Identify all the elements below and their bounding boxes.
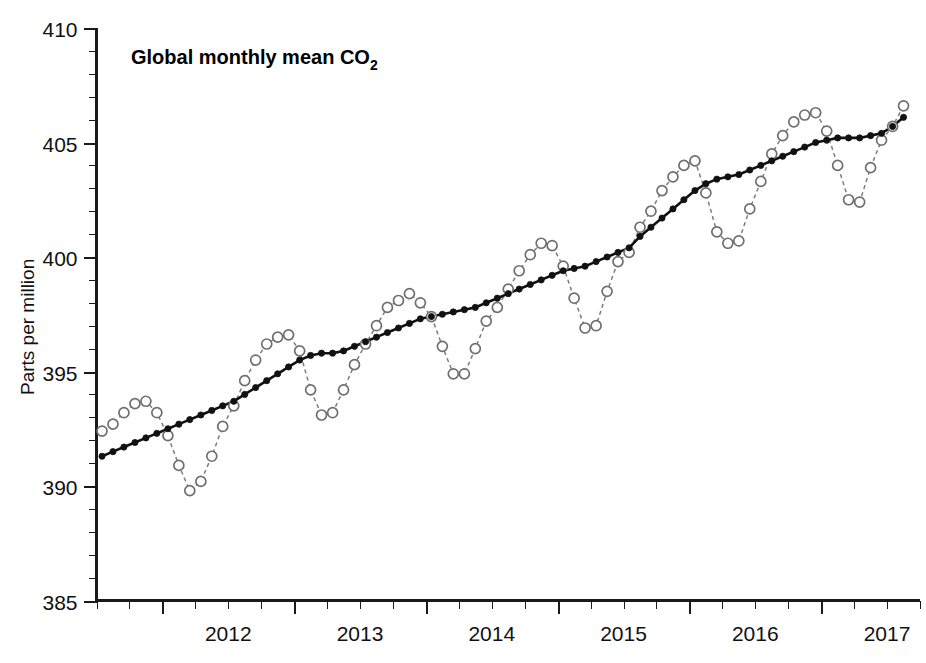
monthly-mean-data-point [152, 408, 162, 418]
trend-data-point [747, 167, 753, 173]
trend-data-point [308, 352, 314, 358]
trend-data-point [494, 295, 500, 301]
trend-data-point [845, 135, 851, 141]
monthly-mean-data-point [174, 460, 184, 470]
chart-title-main: Global monthly mean CO [131, 46, 370, 68]
trend-data-point [351, 343, 357, 349]
monthly-mean-data-point [207, 451, 217, 461]
trend-data-point [330, 350, 336, 356]
trend-data-point [340, 348, 346, 354]
monthly-mean-data-point [745, 204, 755, 214]
monthly-mean-data-point [668, 172, 678, 182]
monthly-mean-data-point [679, 160, 689, 170]
monthly-mean-data-point [756, 176, 766, 186]
trend-data-point [769, 158, 775, 164]
monthly-mean-data-point [833, 160, 843, 170]
y-tick-label-405: 405 [42, 133, 77, 156]
trend-data-point [395, 325, 401, 331]
monthly-mean-path [102, 106, 904, 491]
trend-data-point [121, 444, 127, 450]
monthly-mean-data-point [328, 408, 338, 418]
trend-data-point [264, 378, 270, 384]
monthly-mean-data-point [459, 369, 469, 379]
trend-data-point [373, 334, 379, 340]
monthly-mean-data-point [822, 126, 832, 136]
x-tick-label-2016: 2016 [732, 622, 779, 645]
trend-data-point [286, 364, 292, 370]
monthly-mean-data-point [723, 238, 733, 248]
trend-series-markers [99, 114, 907, 459]
trend-data-point [835, 135, 841, 141]
monthly-mean-data-point [569, 293, 579, 303]
trend-data-point [209, 407, 215, 413]
y-tick-label-395: 395 [42, 362, 77, 385]
monthly-mean-data-point [734, 236, 744, 246]
chart-title: Global monthly mean CO2 [131, 46, 378, 73]
x-tick-label-2017: 2017 [864, 622, 911, 645]
trend-data-point [889, 123, 895, 129]
trend-data-point [472, 304, 478, 310]
trend-data-point [176, 421, 182, 427]
monthly-mean-data-point [437, 341, 447, 351]
monthly-mean-data-point [811, 108, 821, 118]
monthly-mean-data-point [130, 399, 140, 409]
trend-data-point [461, 307, 467, 313]
x-tick-label-2013: 2013 [337, 622, 384, 645]
trend-data-point [165, 426, 171, 432]
monthly-mean-data-point [393, 296, 403, 306]
trend-data-point [231, 398, 237, 404]
monthly-mean-data-point [382, 302, 392, 312]
y-axis-title: Parts per million [17, 259, 38, 395]
monthly-mean-data-point [899, 101, 909, 111]
trend-data-point [132, 439, 138, 445]
monthly-mean-data-point [448, 369, 458, 379]
y-tick-label-400: 400 [42, 247, 77, 270]
trend-data-point [878, 130, 884, 136]
trend-data-point [318, 350, 324, 356]
monthly-mean-data-point [196, 476, 206, 486]
y-axis-ticks [84, 29, 97, 602]
monthly-mean-data-point [108, 419, 118, 429]
trend-data-point [297, 357, 303, 363]
trend-data-point [604, 254, 610, 260]
trend-data-point [242, 391, 248, 397]
trend-data-point [384, 329, 390, 335]
trend-data-point [824, 137, 830, 143]
monthly-mean-data-point [778, 131, 788, 141]
trend-data-point [626, 245, 632, 251]
trend-data-point [549, 272, 555, 278]
trend-data-point [681, 197, 687, 203]
monthly-mean-data-point [371, 321, 381, 331]
trend-data-point [483, 300, 489, 306]
trend-data-point [362, 339, 368, 345]
trend-data-point [582, 263, 588, 269]
trend-data-point [253, 384, 259, 390]
x-tick-label-2012: 2012 [205, 622, 252, 645]
monthly-mean-data-point [470, 344, 480, 354]
x-axis-ticks [98, 601, 921, 614]
monthly-mean-data-point [119, 408, 129, 418]
trend-data-point [516, 286, 522, 292]
monthly-mean-data-point [481, 316, 491, 326]
y-axis-tick-labels: 385390395400405410 [42, 18, 77, 614]
monthly-mean-data-point [591, 321, 601, 331]
monthly-mean-data-point [415, 298, 425, 308]
trend-data-point [703, 181, 709, 187]
monthly-mean-data-point [306, 385, 316, 395]
trend-data-point [154, 430, 160, 436]
monthly-mean-data-point [339, 385, 349, 395]
trend-data-point [538, 277, 544, 283]
monthly-mean-data-point [866, 163, 876, 173]
monthly-mean-data-point [492, 302, 502, 312]
monthly-mean-data-point [701, 188, 711, 198]
monthly-mean-data-point [185, 486, 195, 496]
monthly-mean-data-point [602, 286, 612, 296]
trend-data-point [110, 449, 116, 455]
monthly-mean-data-point [646, 206, 656, 216]
trend-data-point [593, 258, 599, 264]
monthly-mean-data-point [789, 117, 799, 127]
monthly-mean-data-point [404, 289, 414, 299]
monthly-mean-data-point [800, 110, 810, 120]
trend-data-point [99, 453, 105, 459]
trend-data-point [648, 224, 654, 230]
